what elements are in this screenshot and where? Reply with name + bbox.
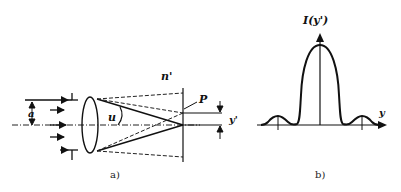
label-p: P	[198, 93, 208, 106]
label-n-prime: n'	[161, 70, 172, 83]
y-axis-arrow-icon	[316, 33, 324, 42]
diagram-canvas: a u n' P y'	[0, 0, 401, 192]
p-leader	[184, 102, 197, 109]
caption-b: b)	[315, 169, 325, 180]
arrowhead-icon	[61, 96, 69, 104]
aperture-stop	[72, 93, 78, 160]
label-a: a	[28, 108, 34, 119]
y-prime-dimension	[217, 101, 223, 139]
x-axis-arrow-icon	[378, 121, 387, 129]
label-y-prime: y'	[228, 114, 238, 125]
panel-a-optical-system: a u n' P y'	[12, 70, 238, 180]
arrowhead-icon	[61, 146, 69, 154]
x-axis-label: y	[378, 107, 386, 118]
y-axis-label: I(y')	[302, 14, 328, 27]
label-u: u	[108, 111, 116, 124]
angle-arc	[118, 107, 122, 125]
panel-b-intensity-chart: y I(y') b)	[257, 14, 387, 180]
caption-a: a)	[110, 169, 120, 180]
